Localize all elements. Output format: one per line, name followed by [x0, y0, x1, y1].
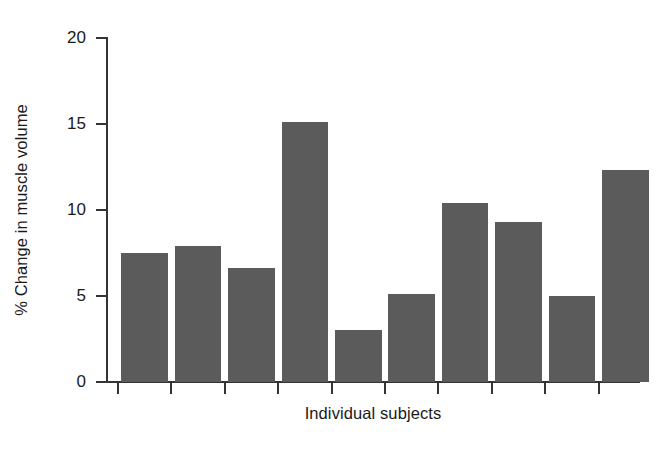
bar	[495, 222, 542, 382]
bar	[442, 203, 489, 382]
x-tick-mark	[170, 383, 172, 394]
x-tick-mark	[384, 383, 386, 394]
bar	[549, 296, 596, 382]
x-tick-mark	[117, 383, 119, 394]
bar	[282, 122, 329, 382]
bar	[175, 246, 222, 382]
x-tick-mark	[598, 383, 600, 394]
x-tick-mark	[544, 383, 546, 394]
x-tick-mark	[491, 383, 493, 394]
bar-chart: % Change in muscle volume 05101520 Indiv…	[0, 0, 667, 459]
x-tick-mark	[277, 383, 279, 394]
x-tick-mark	[224, 383, 226, 394]
bar	[228, 268, 275, 382]
bar	[388, 294, 435, 382]
bar	[121, 253, 168, 382]
bars-group	[0, 0, 667, 382]
x-axis-title: Individual subjects	[106, 404, 640, 423]
bar	[602, 170, 649, 382]
x-tick-mark	[331, 383, 333, 394]
bar	[335, 330, 382, 382]
x-tick-mark	[437, 383, 439, 394]
